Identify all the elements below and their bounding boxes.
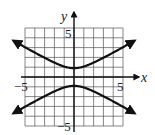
hyperbola-graph: y x 5 −5 −5 5 bbox=[0, 0, 155, 135]
y-axis-label: y bbox=[59, 9, 68, 24]
x-tick-neg5: −5 bbox=[14, 79, 28, 94]
x-tick-5: 5 bbox=[117, 79, 124, 94]
axes bbox=[21, 12, 139, 132]
y-tick-neg5: −5 bbox=[57, 119, 71, 134]
x-axis-label: x bbox=[140, 70, 148, 85]
y-tick-5: 5 bbox=[65, 26, 72, 41]
